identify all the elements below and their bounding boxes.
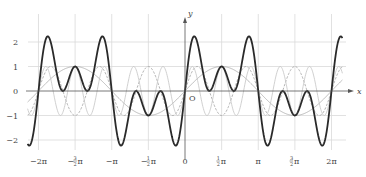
axes: x y O [26,9,362,160]
svg-text:π: π [78,157,83,166]
svg-text:2: 2 [74,161,77,167]
x-tick-label: −32π [68,155,83,167]
y-axis-label: y [187,9,193,18]
svg-text:π: π [256,157,261,166]
x-tick-label: 32π [290,155,300,167]
svg-text:π: π [151,157,156,166]
svg-text:−π: −π [106,157,118,166]
x-tick-label: −12π [141,155,156,167]
y-axis-arrow-icon [183,17,187,23]
y-tick-label: −1 [6,112,18,121]
svg-text:2π: 2π [326,157,336,166]
x-tick-label: π [256,157,261,166]
svg-text:2: 2 [217,161,220,167]
x-axis-label: x [357,87,362,96]
x-tick-label: −π [106,157,118,166]
y-tick-label: 2 [13,38,18,47]
x-tick-label: 2π [326,157,336,166]
x-tick-label: 12π [216,155,226,167]
svg-text:π: π [294,157,299,166]
y-tick-label: 0 [13,87,18,96]
y-tick-label: −2 [6,136,18,145]
svg-text:2: 2 [147,161,150,167]
svg-text:0: 0 [182,157,187,166]
y-tick-label: 1 [13,63,18,72]
svg-text:2: 2 [290,161,293,167]
x-tick-label: −2π [30,157,47,166]
svg-text:π: π [221,157,226,166]
x-tick-label: 0 [182,157,187,166]
svg-text:−2π: −2π [30,157,47,166]
x-axis-arrow-icon [348,89,354,93]
chart: x y O −2π−32π−π−12π012ππ32π2π210−1−2 [0,0,366,177]
origin-label: O [189,94,196,103]
